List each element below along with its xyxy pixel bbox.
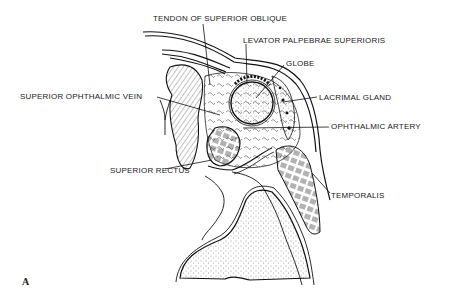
label-temporalis: TEMPORALIS	[331, 192, 385, 200]
label-levator-palpebrae-superioris: LEVATOR PALPEBRAE SUPERIORIS	[243, 37, 385, 45]
label-tendon-superior-oblique: TENDON OF SUPERIOR OBLIQUE	[153, 15, 287, 23]
label-globe: GLOBE	[286, 60, 315, 68]
orbit-cross-section-diagram	[0, 0, 450, 303]
frontal-bone	[160, 65, 203, 169]
label-lacrimal-gland: LACRIMAL GLAND	[319, 94, 391, 102]
label-superior-ophthalmic-vein: SUPERIOR OPHTHALMIC VEIN	[20, 93, 142, 101]
panel-letter: A	[22, 276, 29, 287]
label-superior-rectus: SUPERIOR RECTUS	[110, 167, 190, 175]
vein-branch	[160, 100, 170, 135]
label-ophthalmic-artery: OPHTHALMIC ARTERY	[331, 123, 421, 131]
